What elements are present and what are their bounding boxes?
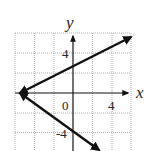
origin-label: 0 [62,98,69,113]
y-tick-neg4-label: -4 [56,126,67,141]
graph: x y 0 4 4 -4 [0,0,153,151]
y-tick-4-label: 4 [62,46,69,61]
y-axis-label: y [64,13,74,32]
upper-branch-line [20,37,131,93]
lower-branch-line [20,93,99,150]
x-tick-4-label: 4 [108,98,115,113]
x-axis-label: x [135,83,144,102]
